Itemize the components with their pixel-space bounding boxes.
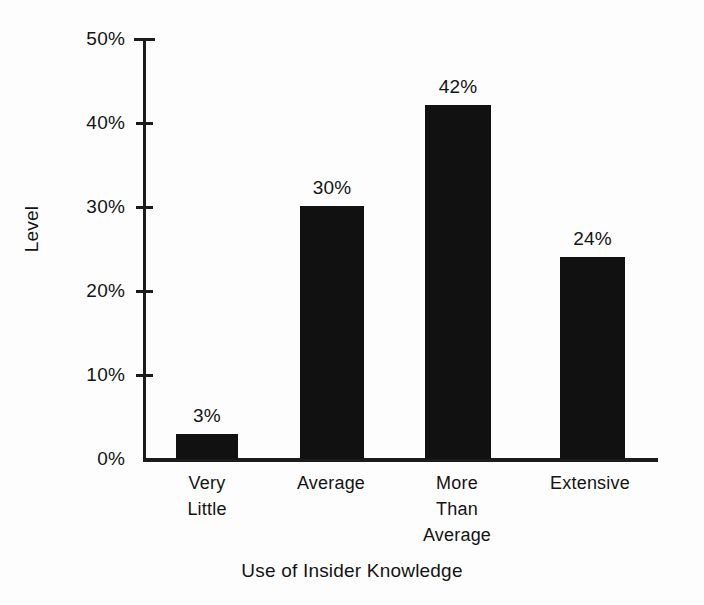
x-axis-category-line: Than xyxy=(436,499,478,519)
x-axis-category-line: More xyxy=(436,473,478,493)
bar-value-label-more-than-average: 42% xyxy=(403,76,513,98)
bar-more-than-average[interactable] xyxy=(425,105,491,459)
chart-figure: Level 50% 40% 30% 20% 10% 0% 3% 30% 42% … xyxy=(0,0,704,605)
bar-very-little[interactable] xyxy=(176,434,238,459)
x-axis-category-very-little: VeryLittle xyxy=(142,470,272,522)
y-axis-tick-label-0: 0% xyxy=(55,448,125,470)
x-axis-category-line: Average xyxy=(297,473,365,493)
y-axis-title: Level xyxy=(21,179,43,279)
x-axis-category-line: Average xyxy=(423,525,491,545)
y-axis-tick-label-20: 20% xyxy=(55,280,125,302)
y-axis-tick-label-40: 40% xyxy=(55,112,125,134)
x-axis-category-average: Average xyxy=(266,470,396,496)
bar-extensive[interactable] xyxy=(560,257,625,459)
bar-value-label-extensive: 24% xyxy=(538,228,648,250)
x-axis-category-more-than-average: MoreThanAverage xyxy=(392,470,522,548)
x-axis-category-line: Little xyxy=(187,499,226,519)
x-axis-category-line: Very xyxy=(189,473,226,493)
bar-value-label-average: 30% xyxy=(277,177,387,199)
x-axis-category-extensive: Extensive xyxy=(525,470,655,496)
y-axis-tick-label-50: 50% xyxy=(55,28,125,50)
x-axis-title: Use of Insider Knowledge xyxy=(0,560,704,582)
y-axis-tick-label-30: 30% xyxy=(55,196,125,218)
x-axis-category-line: Extensive xyxy=(550,473,630,493)
y-axis-tick-label-10: 10% xyxy=(55,364,125,386)
bar-average[interactable] xyxy=(300,206,364,459)
bar-value-label-very-little: 3% xyxy=(152,405,262,427)
